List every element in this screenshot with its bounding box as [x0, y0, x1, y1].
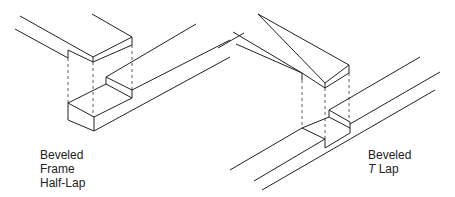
label-line: Beveled — [368, 148, 411, 162]
left-upper-member — [15, 14, 132, 62]
label-line: Beveled — [40, 148, 85, 162]
right-back-rails — [218, 33, 302, 73]
label-beveled-frame-half-lap: Beveled Frame Half-Lap — [40, 148, 85, 190]
label-line: Half-Lap — [40, 176, 85, 190]
left-lower-member — [68, 24, 230, 131]
label-line: Frame — [40, 162, 85, 176]
left-guides — [68, 45, 132, 117]
label-lap: Lap — [375, 162, 398, 176]
label-beveled-t-lap: Beveled T Lap — [368, 148, 411, 176]
joint-diagram: Beveled Frame Half-Lap Beveled T Lap — [0, 0, 455, 197]
right-upper-member — [233, 14, 349, 88]
label-line: T Lap — [368, 162, 411, 176]
